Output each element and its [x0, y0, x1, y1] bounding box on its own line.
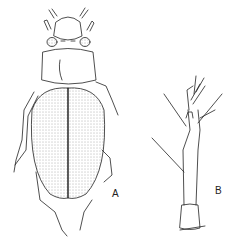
beetle-illustration [0, 0, 236, 242]
figure: A B [0, 0, 236, 242]
panel-label-a: A [112, 188, 119, 199]
panel-label-b: B [215, 185, 222, 196]
